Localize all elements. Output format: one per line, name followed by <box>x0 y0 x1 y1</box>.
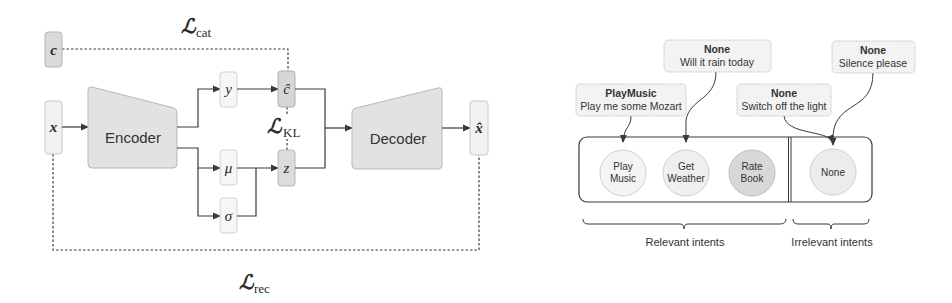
encoder-to-sigma-arrow <box>198 168 220 216</box>
sigma-label: σ <box>225 208 233 224</box>
mu-label: μ <box>224 160 233 176</box>
intent-label-line2: Music <box>610 173 636 184</box>
encoder-to-y-arrow <box>177 89 220 127</box>
intent-diagram: PlayMusic Play me some Mozart None Will … <box>576 40 915 248</box>
utterance-intent: None <box>860 44 886 56</box>
x-label: x <box>49 119 58 135</box>
y-node: y <box>220 72 237 107</box>
irrelevant-intents-label: Irrelevant intents <box>791 236 873 248</box>
intent-play-music: Play Music <box>600 150 646 196</box>
decoder-block: Decoder <box>352 88 442 169</box>
c-hat-label: ĉ <box>283 81 290 97</box>
x-node: x <box>45 101 62 154</box>
c-hat-node: ĉ <box>278 71 295 107</box>
decoder-label: Decoder <box>370 130 427 147</box>
cat-loss-dashed-line <box>62 49 288 71</box>
utterance-intent: None <box>771 87 797 99</box>
utterance-intent: PlayMusic <box>605 87 657 99</box>
rec-loss-symbol: ℒ <box>239 271 255 293</box>
intent-label-line2: Weather <box>667 173 705 184</box>
cat-loss-symbol: ℒ <box>181 15 197 37</box>
cat-loss-subscript: cat <box>196 25 212 40</box>
z-node: z <box>278 150 295 186</box>
utterance-rain: None Will it rain today <box>664 40 771 72</box>
kl-loss-label: ℒ KL <box>266 115 310 140</box>
utterance-text: Switch off the light <box>741 100 826 112</box>
encoder-label: Encoder <box>105 129 161 146</box>
playmusic-connector <box>623 116 631 142</box>
rec-loss-label: ℒ rec <box>239 271 270 296</box>
c-node: c <box>45 32 62 67</box>
x-hat-node: x̂ <box>470 101 488 155</box>
utterance-silence: None Silence please <box>832 41 915 73</box>
mu-node: μ <box>220 150 237 185</box>
relevant-brace <box>583 219 786 229</box>
y-label: y <box>223 81 232 97</box>
intent-label-line1: Get <box>678 161 694 172</box>
intent-get-weather: Get Weather <box>663 150 709 196</box>
utterance-switch: None Switch off the light <box>737 84 831 116</box>
x-hat-label: x̂ <box>474 120 483 136</box>
z-label: z <box>283 160 290 176</box>
utterance-text: Will it rain today <box>680 56 755 68</box>
intent-label-line2: Book <box>741 173 765 184</box>
c-label: c <box>50 42 57 58</box>
intent-label-line1: None <box>821 167 845 178</box>
utterance-text: Silence please <box>839 57 907 69</box>
utterance-text: Play me some Mozart <box>580 100 682 112</box>
rain-connector <box>686 72 716 142</box>
silence-connector <box>833 73 873 145</box>
vae-diagram: c x Encoder y μ σ <box>45 15 488 296</box>
kl-loss-symbol: ℒ <box>267 115 283 137</box>
irrelevant-brace <box>793 219 869 229</box>
intent-label-line1: Rate <box>741 161 763 172</box>
sigma-node: σ <box>220 198 237 233</box>
rec-loss-subscript: rec <box>254 281 270 296</box>
cat-loss-label: ℒ cat <box>181 15 212 40</box>
sigma-to-z-line <box>237 168 256 216</box>
encoder-to-mu-arrow <box>177 148 220 168</box>
figure-canvas: c x Encoder y μ σ <box>0 0 952 303</box>
kl-loss-subscript: KL <box>283 125 300 140</box>
encoder-block: Encoder <box>88 87 177 168</box>
intent-none: None <box>810 149 856 195</box>
intent-rate-book: Rate Book <box>729 150 775 196</box>
relevant-intents-label: Relevant intents <box>646 236 725 248</box>
utterance-intent: None <box>704 43 730 55</box>
intent-label-line1: Play <box>613 161 632 172</box>
